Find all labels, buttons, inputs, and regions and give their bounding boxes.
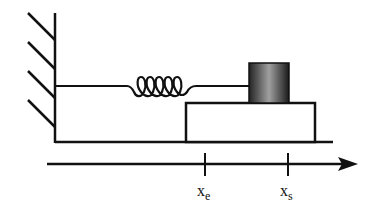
diagram-canvas: xe xs bbox=[0, 0, 372, 218]
x-axis bbox=[47, 153, 358, 176]
lower-block bbox=[186, 103, 315, 142]
label-xs: xs bbox=[280, 182, 293, 203]
label-xe: xe bbox=[197, 182, 210, 203]
mass bbox=[249, 63, 289, 103]
spring bbox=[55, 77, 249, 96]
fixed-wall bbox=[28, 13, 55, 143]
